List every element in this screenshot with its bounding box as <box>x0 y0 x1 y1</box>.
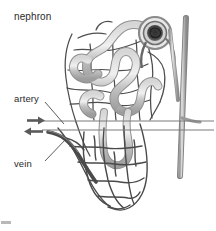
nephron-illustration <box>0 0 216 231</box>
label-vein: vein <box>14 159 32 169</box>
vein-leader-line <box>45 139 66 161</box>
arrow-left-icon <box>24 128 43 136</box>
collecting-duct <box>170 18 200 176</box>
label-nephron: nephron <box>14 12 51 22</box>
renal-artery <box>42 121 214 123</box>
label-artery: artery <box>14 94 39 104</box>
corner-mark <box>1 221 11 224</box>
nephron-diagram: nephron artery vein <box>0 0 216 231</box>
